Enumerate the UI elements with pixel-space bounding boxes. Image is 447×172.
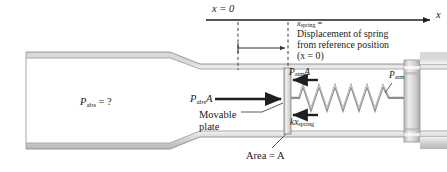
label-area: Area = A <box>246 150 285 162</box>
figure-canvas: x = 0 x xspring = Displacement of spring… <box>0 0 447 172</box>
label-p-abs-A: PabsA <box>190 93 212 106</box>
label-kx-spring: kxspring <box>290 117 314 128</box>
axis-x-label: x <box>436 9 441 21</box>
dashed-reference-lines <box>238 22 288 70</box>
label-movable-plate: Movable plate <box>199 109 236 133</box>
axis-origin-label: x = 0 <box>212 3 234 15</box>
displacement-arrow <box>238 43 285 53</box>
label-p-atm-A: PatmA <box>289 67 310 78</box>
label-p-atm: Patm <box>389 70 404 81</box>
label-p-abs-unknown: Pabs = ? <box>80 96 112 109</box>
movable-plate-line-1: Movable <box>199 109 236 121</box>
callout-line-4: (x = 0) <box>297 51 389 62</box>
spring-displacement-callout: xspring = Displacement of spring from re… <box>297 19 389 62</box>
movable-plate-line-2: plate <box>199 121 236 133</box>
